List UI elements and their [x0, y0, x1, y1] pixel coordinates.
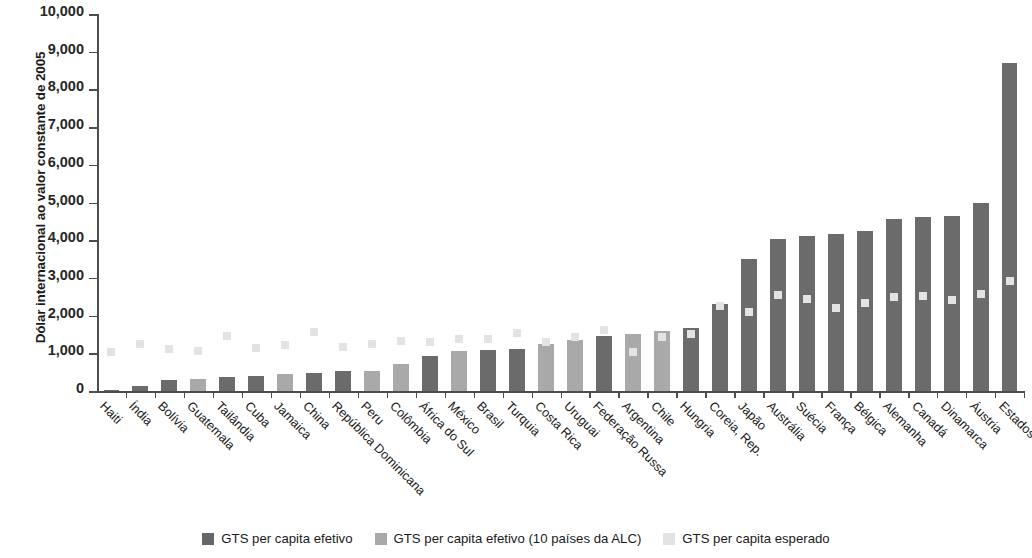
expected-value-marker	[368, 340, 376, 348]
expected-value-marker	[252, 344, 260, 352]
bar[interactable]	[625, 334, 641, 391]
expected-value-marker	[571, 333, 579, 341]
bar-slot[interactable]	[1002, 14, 1018, 391]
x-axis-labels: HaitiÍndiaBolíviaGuatemalaTailândiaCubaJ…	[97, 393, 1024, 523]
y-axis-tick-label: 9,000	[48, 41, 84, 57]
x-axis-label: Estados Unidos	[996, 399, 1032, 471]
bar-slot[interactable]	[451, 14, 467, 391]
bar-slot[interactable]	[712, 14, 728, 391]
y-axis-tick: 8,000	[2, 89, 97, 90]
bar[interactable]	[451, 351, 467, 391]
bar[interactable]	[364, 371, 380, 391]
bar[interactable]	[422, 356, 438, 391]
bar-slot[interactable]	[654, 14, 670, 391]
y-axis-tick-label: 3,000	[48, 267, 84, 283]
bar[interactable]	[132, 386, 148, 391]
y-axis-tick-label: 2,000	[48, 305, 84, 321]
bar[interactable]	[161, 380, 177, 391]
bar[interactable]	[857, 231, 873, 391]
y-axis-tick-label: 1,000	[48, 342, 84, 358]
expected-value-marker	[339, 343, 347, 351]
bar[interactable]	[104, 390, 120, 392]
bar-slot[interactable]	[480, 14, 496, 391]
bar-slot[interactable]	[625, 14, 641, 391]
expected-value-marker	[919, 292, 927, 300]
y-axis-tick-mark	[89, 52, 97, 54]
expected-value-marker	[861, 299, 869, 307]
bar-slot[interactable]	[306, 14, 322, 391]
y-axis-tick: 7,000	[2, 127, 97, 128]
y-axis-tick-label: 8,000	[48, 78, 84, 94]
expected-value-marker	[600, 326, 608, 334]
bar[interactable]	[712, 304, 728, 391]
bar-slot[interactable]	[944, 14, 960, 391]
y-axis-tick-label: 5,000	[48, 192, 84, 208]
bar-slot[interactable]	[973, 14, 989, 391]
bar[interactable]	[480, 350, 496, 391]
legend-item[interactable]: GTS per capita esperado	[663, 531, 829, 546]
bar[interactable]	[277, 374, 293, 391]
legend-label: GTS per capita efetivo	[221, 531, 352, 546]
expected-value-marker	[426, 338, 434, 346]
bar[interactable]	[799, 236, 815, 391]
y-axis-tick-mark	[89, 127, 97, 129]
bar-slot[interactable]	[683, 14, 699, 391]
bar-slot[interactable]	[132, 14, 148, 391]
bar-slot[interactable]	[799, 14, 815, 391]
bar[interactable]	[1002, 63, 1018, 391]
bar-slot[interactable]	[190, 14, 206, 391]
y-axis-tick-mark	[89, 240, 97, 242]
bar[interactable]	[393, 364, 409, 391]
y-axis-tick-label: 7,000	[48, 116, 84, 132]
chart-legend: GTS per capita efetivoGTS per capita efe…	[0, 531, 1032, 546]
legend-item[interactable]: GTS per capita efetivo (10 países da ALC…	[375, 531, 642, 546]
bar-slot[interactable]	[509, 14, 525, 391]
bar-slot[interactable]	[219, 14, 235, 391]
bar[interactable]	[248, 376, 264, 391]
expected-value-marker	[716, 302, 724, 310]
bar-slot[interactable]	[741, 14, 757, 391]
y-axis-title: Dólar internacional ao valor constante d…	[33, 0, 48, 398]
bar[interactable]	[828, 234, 844, 391]
bar[interactable]	[596, 336, 612, 391]
bar[interactable]	[886, 219, 902, 391]
bar-slot[interactable]	[277, 14, 293, 391]
bar[interactable]	[335, 371, 351, 391]
bar-slot[interactable]	[364, 14, 380, 391]
expected-value-marker	[165, 345, 173, 353]
bar-slot[interactable]	[567, 14, 583, 391]
y-axis-tick: 1,000	[2, 353, 97, 354]
bar[interactable]	[219, 377, 235, 391]
bar-slot[interactable]	[335, 14, 351, 391]
bar-slot[interactable]	[915, 14, 931, 391]
expected-value-marker	[687, 330, 695, 338]
expected-value-marker	[890, 293, 898, 301]
y-axis-tick-label: 6,000	[48, 154, 84, 170]
expected-value-marker	[310, 328, 318, 336]
bar-slot[interactable]	[886, 14, 902, 391]
bar[interactable]	[915, 217, 931, 391]
bar-slot[interactable]	[857, 14, 873, 391]
bar-slot[interactable]	[596, 14, 612, 391]
plot-area: 10,0009,0008,0007,0006,0005,0004,0003,00…	[97, 14, 1024, 391]
expected-value-marker	[397, 337, 405, 345]
legend-item[interactable]: GTS per capita efetivo	[202, 531, 352, 546]
bar[interactable]	[567, 340, 583, 391]
bar[interactable]	[770, 239, 786, 391]
bar[interactable]	[741, 259, 757, 391]
bar-slot[interactable]	[393, 14, 409, 391]
bar-slot[interactable]	[248, 14, 264, 391]
bar-slot[interactable]	[828, 14, 844, 391]
bar-slot[interactable]	[538, 14, 554, 391]
y-axis-tick: 10,000	[2, 14, 97, 15]
bar-slot[interactable]	[161, 14, 177, 391]
bar-slot[interactable]	[770, 14, 786, 391]
bar[interactable]	[538, 344, 554, 392]
bar[interactable]	[190, 379, 206, 391]
bar[interactable]	[509, 349, 525, 391]
y-axis-tick-mark	[89, 391, 97, 393]
legend-swatch-effective	[202, 533, 214, 545]
bar-slot[interactable]	[104, 14, 120, 391]
bar-slot[interactable]	[422, 14, 438, 391]
bar[interactable]	[306, 373, 322, 391]
